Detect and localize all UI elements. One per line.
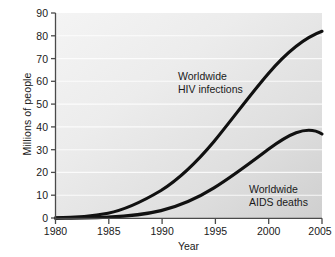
x-tick-label: 1985: [89, 226, 129, 237]
x-tick-label: 1990: [142, 226, 182, 237]
y-axis-title: Millions of people: [21, 39, 33, 189]
series-annotation-aids-deaths: Worldwide AIDS deaths: [249, 183, 308, 208]
annotation-line-2: HIV infections: [178, 83, 243, 96]
x-tick-label: 1980: [36, 226, 76, 237]
annotation-line-1: Worldwide: [249, 183, 308, 196]
hiv-aids-line-chart: 90 80 70 60 50 40 30 20 10 0 1980 1985 1…: [0, 0, 335, 257]
x-axis-tick-labels: 1980 1985 1990 1995 2000 2005: [0, 0, 335, 257]
x-tick-label: 1995: [195, 226, 235, 237]
x-axis-title: Year: [55, 240, 322, 252]
x-tick-label: 2000: [249, 226, 289, 237]
x-tick-label: 2005: [300, 226, 335, 237]
series-annotation-hiv-infections: Worldwide HIV infections: [178, 70, 243, 95]
annotation-line-1: Worldwide: [178, 70, 243, 83]
annotation-line-2: AIDS deaths: [249, 196, 308, 209]
